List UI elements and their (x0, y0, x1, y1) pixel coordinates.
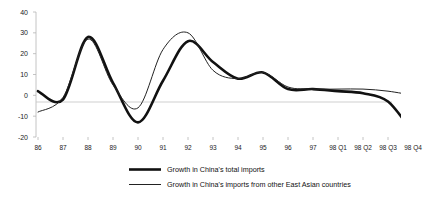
x-tick-label: 98 Q4 (398, 144, 427, 151)
legend-label-east-asian-imports: Growth in China's imports from other Eas… (167, 180, 351, 189)
legend-item-total-imports: Growth in China's total imports (0, 162, 401, 177)
y-tick-label: -20 (8, 134, 28, 141)
y-tick-label: 10 (8, 71, 28, 78)
x-tick-marks (38, 137, 401, 140)
legend-swatch-thin (128, 180, 162, 189)
axis-layer (33, 12, 401, 140)
legend-item-east-asian-imports: Growth in China's imports from other Eas… (0, 177, 401, 192)
y-tick-label: 0 (8, 92, 28, 99)
chart-legend: Growth in China's total imports Growth i… (0, 162, 401, 192)
legend-swatch-thick (128, 165, 162, 174)
y-tick-marks (33, 12, 36, 137)
series-line-east-asian-imports (38, 32, 401, 112)
series-layer (38, 32, 401, 133)
legend-label-total-imports: Growth in China's total imports (167, 165, 265, 174)
y-tick-label: -10 (8, 113, 28, 120)
y-tick-label: 40 (8, 9, 28, 16)
y-tick-label: 30 (8, 29, 28, 36)
y-tick-label: 20 (8, 50, 28, 57)
series-line-total-imports (38, 37, 401, 133)
